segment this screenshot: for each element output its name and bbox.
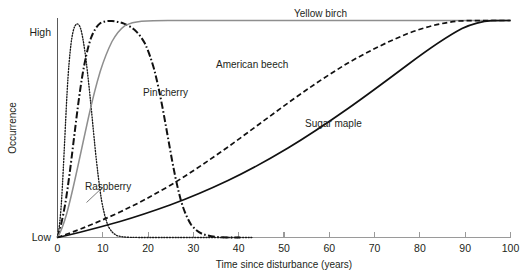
curve-yellow-birch — [58, 21, 511, 238]
x-tick-label-60: 60 — [323, 242, 335, 254]
x-tick-label-100: 100 — [502, 242, 520, 254]
x-tick-label-0: 0 — [55, 242, 61, 254]
series-label-yellow-birch: Yellow birch — [294, 8, 347, 19]
succession-chart: 0 10 20 30 40 50 60 70 80 90 100 High Lo… — [0, 0, 528, 276]
series-label-sugar-maple: Sugar maple — [305, 118, 362, 129]
x-tick-label-50: 50 — [278, 242, 290, 254]
y-axis-high-label: High — [29, 26, 51, 38]
curve-sugar-maple — [58, 21, 511, 238]
x-tick-label-30: 30 — [188, 242, 200, 254]
series-label-american-beech: American beech — [216, 59, 288, 70]
x-axis-title: Time since disturbance (years) — [216, 259, 352, 270]
series-label-pin-cherry: Pin cherry — [143, 87, 188, 98]
x-tick-label-10: 10 — [97, 242, 109, 254]
y-axis-title: Occurrence — [7, 102, 18, 154]
axes-group — [57, 18, 511, 238]
x-tick-label-40: 40 — [233, 242, 245, 254]
y-axis-low-label: Low — [32, 231, 52, 243]
x-tick-label-20: 20 — [142, 242, 154, 254]
x-tick-label-90: 90 — [459, 242, 471, 254]
x-axis-tick-labels: 0 10 20 30 40 50 60 70 80 90 100 — [55, 242, 520, 254]
x-tick-label-80: 80 — [414, 242, 426, 254]
x-tick-label-70: 70 — [369, 242, 381, 254]
curve-american-beech — [58, 21, 511, 238]
chart-canvas: 0 10 20 30 40 50 60 70 80 90 100 High Lo… — [0, 0, 528, 276]
series-label-raspberry: Raspberry — [85, 181, 131, 192]
